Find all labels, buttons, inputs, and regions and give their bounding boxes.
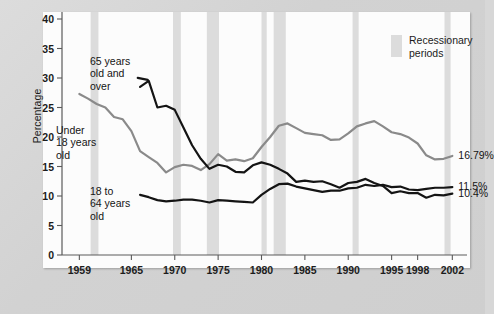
x-tick-label: 1970	[155, 264, 195, 276]
series-line	[140, 81, 452, 198]
recession-band	[262, 12, 267, 255]
plot-area: Recessionary periods	[43, 12, 470, 268]
recession-band	[274, 12, 286, 255]
annotation-pointers-group	[138, 78, 148, 80]
x-tick-label: 1985	[285, 264, 325, 276]
y-tick-label: 20	[0, 131, 54, 143]
x-tick-label: 1959	[59, 264, 99, 276]
y-tick-label: 5	[0, 220, 54, 232]
y-tick-label: 40	[0, 13, 54, 25]
y-tick-label: 25	[0, 102, 54, 114]
legend-swatch-recession	[391, 35, 402, 57]
x-tick-label: 1975	[198, 264, 238, 276]
recession-band	[353, 12, 359, 255]
recession-band	[207, 12, 219, 255]
y-tick-label: 10	[0, 190, 54, 202]
y-tick-label: 35	[0, 43, 54, 55]
recession-band	[173, 12, 181, 255]
y-tick-label: 0	[0, 249, 54, 261]
annotation-pointer-over-65	[138, 78, 148, 80]
under-18-annotation: Under 18 years old	[56, 124, 96, 161]
legend: Recessionary periods	[391, 34, 473, 59]
y-tick-label: 15	[0, 161, 54, 173]
over-65-annotation: 65 years old and over	[90, 55, 130, 92]
x-tick-label: 1965	[111, 264, 151, 276]
x-tick-label: 2002	[432, 264, 472, 276]
x-tick-label: 1980	[242, 264, 282, 276]
x-tick-label: 1990	[328, 264, 368, 276]
series-end-label: 11.5%	[458, 180, 487, 192]
legend-label-recession: Recessionary periods	[409, 34, 473, 59]
series-end-label: 16.79%	[458, 149, 494, 161]
18-to-64-annotation: 18 to 64 years old	[90, 185, 130, 222]
y-axis-title: Percentage	[31, 71, 43, 161]
y-tick-label: 30	[0, 72, 54, 84]
